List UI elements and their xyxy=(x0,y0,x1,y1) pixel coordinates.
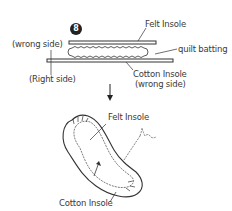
step-number-badge: 8 xyxy=(70,23,82,35)
diagram-drawing xyxy=(0,0,232,211)
cotton-insole-layer xyxy=(47,59,173,62)
quilt-batting-label: quilt batting xyxy=(178,44,227,54)
right-side-label: (Right side) xyxy=(29,74,76,84)
wrong-side-label: (wrong side) xyxy=(12,39,63,49)
felt-insole-layer xyxy=(69,41,156,44)
felt-insole-label: Felt Insole xyxy=(145,19,186,29)
quilt-batting-layer xyxy=(68,47,148,58)
cotton-insole-label: Cotton Insole xyxy=(133,69,187,79)
felt-insole-bottom-label: Felt Insole xyxy=(108,112,149,122)
needle-thread-icon xyxy=(124,128,156,160)
cotton-insole-bottom-label: Cotton Insole xyxy=(59,198,113,208)
cotton-insole-wrong-side-label: (wrong side) xyxy=(135,79,186,89)
